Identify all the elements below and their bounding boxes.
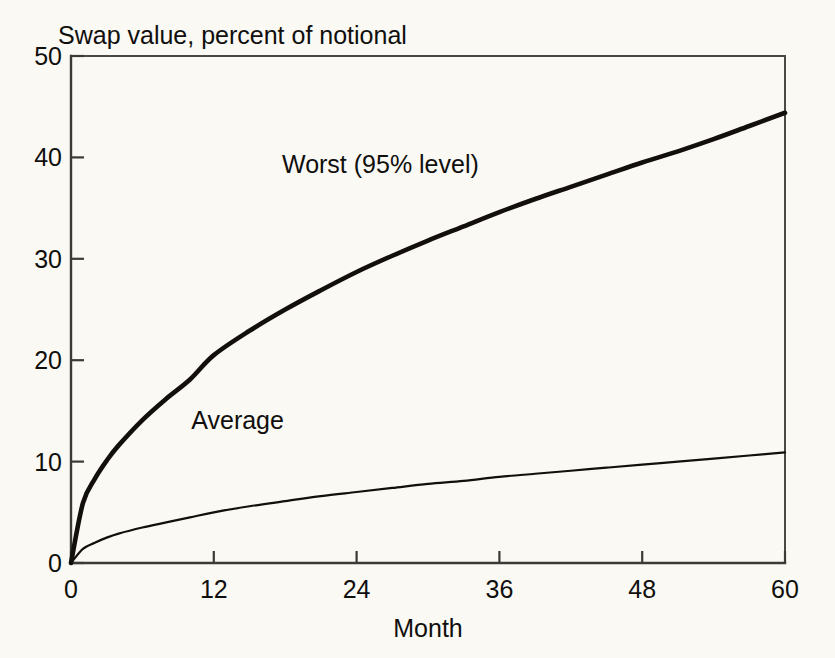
x-tick-label-60: 60 xyxy=(771,575,799,603)
y-tick-label-0: 0 xyxy=(48,549,62,577)
series-label-average: Average xyxy=(191,406,284,434)
y-tick-label-30: 30 xyxy=(34,245,62,273)
y-tick-label-10: 10 xyxy=(34,448,62,476)
swap-value-line-chart: 0 10 20 30 40 50 0 12 24 36 48 60 Swap v… xyxy=(0,0,835,658)
x-tick-label-12: 12 xyxy=(200,575,228,603)
y-tick-label-40: 40 xyxy=(34,143,62,171)
y-tick-label-20: 20 xyxy=(34,346,62,374)
x-axis-label: Month xyxy=(393,614,462,642)
chart-background xyxy=(0,0,835,658)
chart-page: 0 10 20 30 40 50 0 12 24 36 48 60 Swap v… xyxy=(0,0,835,658)
x-tick-label-48: 48 xyxy=(628,575,656,603)
x-tick-label-24: 24 xyxy=(343,575,371,603)
chart-title: Swap value, percent of notional xyxy=(58,21,407,49)
series-label-worst: Worst (95% level) xyxy=(282,150,479,178)
x-tick-label-0: 0 xyxy=(64,575,78,603)
x-tick-label-36: 36 xyxy=(485,575,513,603)
